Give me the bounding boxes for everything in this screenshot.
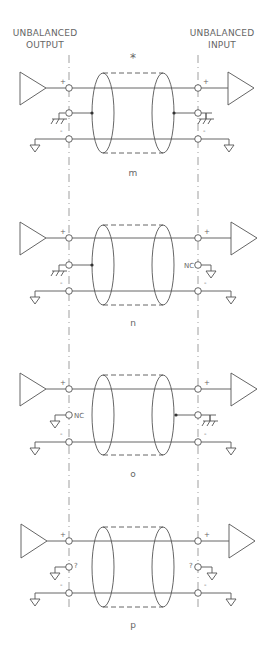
chassis-ground-icon — [202, 415, 218, 426]
panel-m: + - + - m — [20, 72, 254, 178]
minus-label: - — [204, 279, 207, 287]
signal-ground-icon — [30, 139, 40, 152]
panel-label: o — [130, 469, 136, 479]
plus-label: + — [60, 379, 66, 387]
plus-label: + — [60, 78, 66, 86]
panel-n: NC + - + - n — [20, 222, 257, 328]
minus-label: - — [60, 581, 63, 589]
unknown-label: ? — [74, 562, 78, 570]
signal-ground-icon — [207, 567, 217, 580]
input-amplifier-icon — [231, 373, 257, 406]
wiring-diagram: UNBALANCED OUTPUT UNBALANCED INPUT * — [0, 0, 270, 657]
signal-ground-icon — [206, 265, 216, 278]
plus-label: + — [204, 228, 210, 236]
minus-label: - — [204, 581, 207, 589]
input-header-line2: INPUT — [208, 40, 236, 50]
signal-ground-icon — [30, 291, 40, 304]
minus-label: - — [60, 430, 63, 438]
unknown-label: ? — [189, 562, 193, 570]
plus-label: + — [203, 78, 209, 86]
output-header-line1: UNBALANCED — [13, 28, 78, 38]
input-amplifier-icon — [231, 222, 257, 255]
cable-shield-icon — [92, 527, 174, 607]
minus-label: - — [60, 127, 63, 135]
nc-label: NC — [184, 262, 194, 270]
minus-label: - — [204, 430, 207, 438]
plus-label: + — [204, 531, 210, 539]
input-amplifier-icon — [228, 72, 254, 105]
panel-p: ? ? + - + - p — [21, 524, 255, 630]
output-header: UNBALANCED OUTPUT — [13, 28, 78, 50]
output-amplifier-icon — [20, 72, 46, 105]
nc-label: NC — [74, 412, 84, 420]
chassis-ground-icon — [51, 265, 67, 276]
input-amplifier-icon — [229, 524, 255, 558]
panel-label: m — [129, 168, 138, 178]
panel-label: n — [130, 318, 136, 328]
signal-ground-icon — [224, 139, 234, 152]
signal-ground-icon — [30, 593, 40, 606]
minus-label: - — [203, 127, 206, 135]
signal-ground-icon — [226, 593, 236, 606]
cable-shield-icon — [92, 375, 174, 455]
input-header-line1: UNBALANCED — [190, 28, 255, 38]
minus-label: - — [60, 279, 63, 287]
signal-ground-icon — [50, 567, 60, 580]
output-amplifier-icon — [20, 373, 46, 406]
output-header-line2: OUTPUT — [26, 40, 64, 50]
plus-label: + — [60, 531, 66, 539]
signal-ground-icon — [50, 415, 60, 428]
cable-shield-icon — [92, 73, 174, 153]
signal-ground-icon — [226, 291, 236, 304]
asterisk-note: * — [130, 51, 136, 65]
cable-shield-icon — [92, 225, 174, 305]
input-header: UNBALANCED INPUT — [190, 28, 255, 50]
chassis-ground-icon — [51, 113, 67, 124]
plus-label: + — [60, 228, 66, 236]
output-amplifier-icon — [20, 222, 46, 255]
signal-ground-icon — [30, 442, 40, 455]
panel-o: NC + - + - o — [20, 373, 257, 479]
signal-ground-icon — [226, 442, 236, 455]
panel-label: p — [130, 620, 136, 630]
plus-label: + — [204, 379, 210, 387]
output-amplifier-icon — [21, 524, 47, 558]
